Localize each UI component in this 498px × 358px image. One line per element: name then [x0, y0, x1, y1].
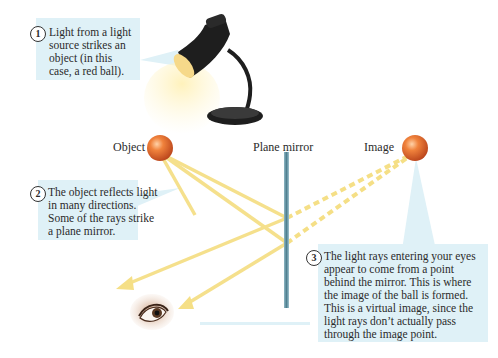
eye-line	[200, 322, 310, 325]
virtual-ray-1	[287, 153, 414, 218]
image-ball	[402, 135, 428, 161]
mirror-diagram: Object Plane mirror Image 1 Light from a…	[0, 0, 498, 358]
callout-1: 1 Light from a light source strikes an o…	[36, 18, 140, 80]
virtual-rays	[287, 153, 414, 243]
arrowhead-1	[116, 276, 134, 290]
eye-icon	[130, 294, 174, 330]
callout-2: 2 The object reflects light in many dire…	[38, 180, 138, 240]
object-ball	[147, 135, 173, 161]
plane-mirror-label: Plane mirror	[253, 140, 313, 155]
callout-3: 3 The light rays entering your eyes appe…	[318, 244, 488, 342]
step-number-1: 1	[30, 26, 46, 42]
plane-mirror	[284, 152, 289, 308]
virtual-ray-2	[287, 153, 414, 243]
callout-2-text: The object reflects light in many direct…	[48, 186, 178, 238]
object-label: Object	[113, 140, 145, 155]
image-label: Image	[364, 140, 394, 155]
callout-3-pointer	[402, 158, 436, 250]
step-number-3: 3	[306, 250, 322, 266]
callout-1-text: Light from a light source strikes an obj…	[49, 26, 131, 78]
step-number-2: 2	[30, 186, 46, 202]
ray-object-to-mirror-2	[160, 153, 287, 243]
callout-3-text: The light rays entering your eyes appear…	[324, 250, 492, 341]
arrowhead-2	[178, 296, 194, 309]
